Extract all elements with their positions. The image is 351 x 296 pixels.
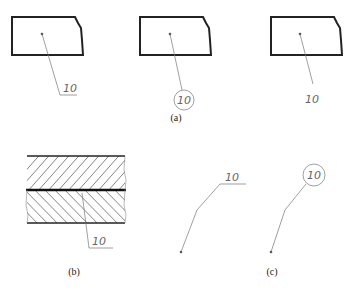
leader-line xyxy=(271,184,306,252)
part-number-label: 10 xyxy=(305,93,319,106)
caption-b: (b) xyxy=(68,266,80,278)
panel-b-welded-plates: 10 xyxy=(0,150,154,248)
part-number-label: 10 xyxy=(225,171,239,184)
caption-c: (c) xyxy=(266,266,277,278)
part-number-label: 10 xyxy=(63,82,77,95)
leader-line xyxy=(170,34,182,90)
technical-drawing: 10 10 10 (a) xyxy=(0,0,351,296)
panel-c-leader-2: 10 xyxy=(270,164,325,253)
panel-a-part-2: 10 xyxy=(140,17,211,110)
leader-line xyxy=(181,184,246,252)
part-number-label: 10 xyxy=(92,235,106,248)
part-outline xyxy=(140,17,211,55)
part-outline xyxy=(271,17,342,55)
panel-c-leader-1: 10 xyxy=(180,171,246,253)
panel-a-part-3: 10 xyxy=(271,17,342,106)
panel-a-part-1: 10 xyxy=(12,17,83,95)
part-number-label: 10 xyxy=(177,94,191,107)
leader-line xyxy=(300,34,313,84)
break-line-left xyxy=(26,190,28,223)
part-number-label: 10 xyxy=(307,169,321,182)
caption-a: (a) xyxy=(170,112,181,124)
part-outline xyxy=(12,17,83,55)
